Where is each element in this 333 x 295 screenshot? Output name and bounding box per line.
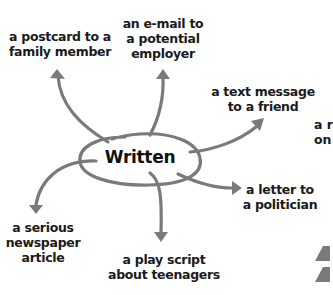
label-line: to a friend <box>211 99 315 114</box>
branch-label-email: an e-mail to a potential employer <box>123 16 204 61</box>
triangle-up-icon <box>315 246 330 261</box>
label-line: on <box>314 132 333 147</box>
label-line: family member <box>9 44 111 59</box>
branch-label-letter: a letter to a politician <box>243 182 318 212</box>
label-line: a potential <box>123 31 204 46</box>
branch-label-text-message: a text message to a friend <box>211 84 315 114</box>
label-line: a letter to <box>243 182 318 197</box>
label-line: employer <box>123 46 204 61</box>
label-line: newspaper <box>6 235 81 250</box>
label-line: a text message <box>211 84 315 99</box>
cut-off-label: a r on <box>314 117 333 147</box>
arrow-to-letter <box>178 174 232 188</box>
arrow-to-newspaper <box>36 161 96 205</box>
arrowhead-play-script <box>154 232 168 242</box>
label-line: about teenagers <box>108 267 220 282</box>
branch-label-postcard: a postcard to a family member <box>9 29 111 59</box>
arrow-to-play-script <box>150 173 161 232</box>
label-line: article <box>6 250 81 265</box>
arrowhead-newspaper <box>29 205 43 214</box>
arrowhead-letter <box>232 181 242 195</box>
label-line: an e-mail to <box>123 16 204 31</box>
arrowhead-postcard <box>50 69 65 79</box>
label-line: a postcard to a <box>9 29 111 44</box>
label-line: a r <box>314 117 333 132</box>
branch-label-newspaper: a serious newspaper article <box>6 220 81 265</box>
label-line: a play script <box>108 252 220 267</box>
center-label: Written <box>105 147 175 167</box>
arrow-to-email <box>150 76 163 135</box>
label-line: a politician <box>243 197 318 212</box>
branch-label-play-script: a play script about teenagers <box>108 252 220 282</box>
label-line: a serious <box>6 220 81 235</box>
triangle-up-icon <box>315 267 330 282</box>
arrow-to-postcard <box>58 76 108 142</box>
arrowhead-email <box>156 69 170 79</box>
arrow-to-text-message <box>190 127 256 152</box>
